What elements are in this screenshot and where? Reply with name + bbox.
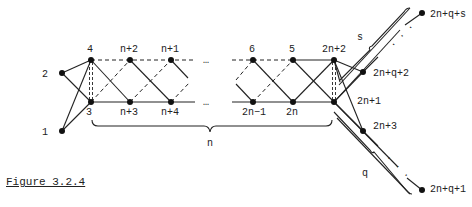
node-n+2 [127,57,133,63]
node-2n+1 [331,99,337,105]
node-2n [290,99,296,105]
node-n+1 [168,57,174,63]
node-2n+q+s [419,10,425,16]
brace-label-q: q [362,168,368,179]
node-2n+2 [331,57,337,63]
label-2n+q+2: 2n+q+2 [373,68,409,79]
node-6 [250,57,256,63]
node-3 [88,99,94,105]
node-5 [290,57,296,63]
figure-caption: Figure 3.2.4 [6,176,85,188]
label-2n+q+s: 2n+q+s [430,9,466,20]
label-2n-1: 2n−1 [242,107,266,118]
ellipsis-bottom: … [203,97,209,108]
brace-label-s: s [357,32,363,43]
dots-s: . . . [386,20,415,49]
label-6: 6 [249,44,255,55]
label-n+3: n+3 [120,107,138,118]
node-4 [88,57,94,63]
node-1 [59,128,65,134]
node-n+4 [168,99,174,105]
brace-label-n: n [207,138,213,149]
ellipsis-top: … [203,55,209,66]
label-3: 3 [86,107,92,118]
node-2n-1 [250,99,256,105]
node-2n+q+1 [419,187,425,193]
node-2n+q+2 [360,69,366,75]
label-4: 4 [87,44,93,55]
label-2n+1: 2n+1 [357,96,381,107]
label-2n+q+1: 2n+q+1 [430,184,466,195]
node-n+3 [127,99,133,105]
label-2: 2 [42,69,48,80]
node-2n+3 [360,128,366,134]
label-n+4: n+4 [161,107,179,118]
label-1: 1 [42,127,48,138]
label-n+1: n+1 [161,44,179,55]
label-2n: 2n [286,107,298,118]
dots-q: . . . [384,151,413,180]
label-n+2: n+2 [120,44,138,55]
label-2n+3: 2n+3 [373,121,397,132]
node-2 [59,70,65,76]
label-2n+2: 2n+2 [322,44,346,55]
label-5: 5 [289,44,295,55]
